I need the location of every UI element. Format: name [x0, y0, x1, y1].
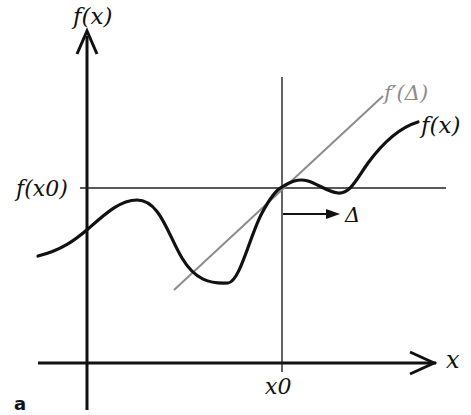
diagram-canvas: f(x) x x0 f(x0) f(x) f′(Δ) Δ a	[0, 0, 471, 415]
delta-label: Δ	[344, 203, 360, 227]
delta-arrowhead-icon	[326, 209, 340, 219]
y-axis	[77, 31, 97, 410]
x-axis-label: x	[446, 346, 460, 374]
curve-label: f(x)	[419, 112, 460, 138]
x-axis	[38, 352, 436, 374]
function-curve	[38, 122, 418, 283]
x0-label: x0	[265, 374, 291, 399]
delta-arrow	[283, 209, 340, 219]
y-axis-label: f(x)	[71, 3, 112, 29]
tangent-label: f′(Δ)	[382, 81, 428, 105]
fx0-label: f(x0)	[14, 176, 68, 201]
panel-label: a	[14, 393, 26, 414]
tangent-line	[174, 96, 383, 290]
